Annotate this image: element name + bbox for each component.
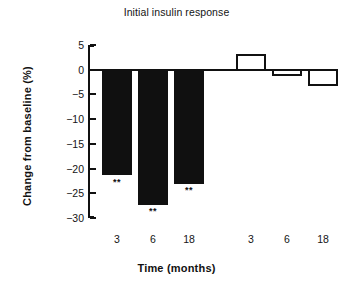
bar-1-18: [174, 69, 204, 185]
x-tick-label: 18: [317, 233, 329, 245]
y-tick-mark: [90, 118, 96, 120]
x-tick-label: 3: [248, 233, 254, 245]
x-tick-label: 6: [150, 233, 156, 245]
y-tick-label: −30: [66, 212, 84, 224]
y-axis-label: Change from baseline (%): [21, 46, 33, 226]
plot-area: 50−5−10−15−20−25−30 ****** 36183618: [88, 45, 338, 218]
y-tick-label: −10: [66, 113, 84, 125]
y-tick-mark: [90, 93, 96, 95]
bar-2-6: [272, 69, 302, 76]
chart-figure: Initial insulin response Change from bas…: [0, 0, 353, 289]
significance-marker: **: [149, 207, 157, 216]
x-tick-label: 6: [284, 233, 290, 245]
y-tick-label: −5: [72, 88, 84, 100]
chart-title: Initial insulin response: [0, 6, 353, 18]
y-tick-label: −25: [66, 187, 84, 199]
significance-marker: **: [185, 186, 193, 195]
y-tick-mark: [90, 168, 96, 170]
bar-1-3: [102, 69, 132, 176]
bar-2-18: [308, 69, 338, 86]
x-axis-label: Time (months): [0, 262, 353, 274]
y-tick-label: −20: [66, 163, 84, 175]
y-tick-mark: [90, 192, 96, 194]
y-tick-mark: [90, 69, 96, 71]
y-tick-label: 0: [78, 64, 84, 76]
y-tick-label: 5: [78, 39, 84, 51]
y-tick-label: −15: [66, 138, 84, 150]
x-tick-label: 3: [114, 233, 120, 245]
bar-1-6: [138, 69, 168, 205]
x-tick-label: 18: [183, 233, 195, 245]
y-tick-mark: [90, 143, 96, 145]
significance-marker: **: [113, 178, 121, 187]
bar-2-3: [236, 54, 266, 71]
y-tick-mark: [90, 44, 96, 46]
y-tick-mark: [90, 217, 96, 219]
